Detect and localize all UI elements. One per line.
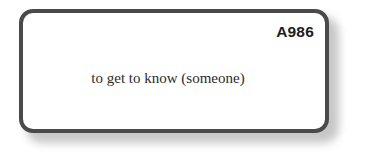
- card-id-label: A986: [276, 24, 314, 40]
- flashcard-root: A986 to get to know (someone): [0, 0, 365, 164]
- card-body: to get to know (someone): [23, 69, 313, 87]
- card-term-text: to get to know (someone): [91, 69, 244, 87]
- flashcard[interactable]: A986 to get to know (someone): [19, 9, 329, 133]
